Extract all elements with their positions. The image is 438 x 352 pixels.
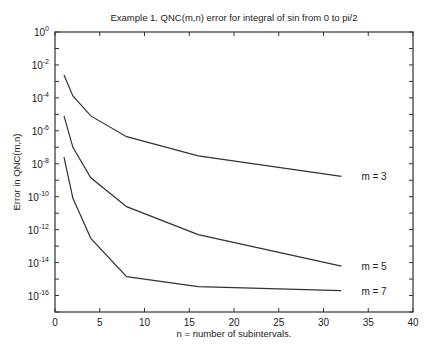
series-label: m = 5 [361, 261, 387, 272]
y-axis-label: Error in QNC(m,n) [11, 133, 22, 210]
chart-canvas: 051015202530354010010-210-410-610-810-10… [0, 0, 438, 352]
plot-frame [55, 32, 413, 312]
y-tick-label: 10-10 [28, 190, 49, 203]
x-tick-label: 25 [273, 317, 285, 328]
chart-title: Example 1. QNC(m,n) error for integral o… [55, 12, 413, 23]
x-tick-label: 0 [52, 317, 58, 328]
series-line [64, 116, 341, 266]
y-tick-label: 10-6 [32, 124, 49, 137]
x-tick-label: 20 [228, 317, 240, 328]
x-tick-label: 40 [407, 317, 419, 328]
y-tick-label: 10-8 [32, 157, 49, 170]
x-tick-label: 15 [184, 317, 196, 328]
x-tick-label: 30 [318, 317, 330, 328]
x-tick-label: 35 [363, 317, 375, 328]
y-tick-label: 10-4 [32, 91, 49, 104]
x-axis-label: n = number of subintervals. [55, 328, 413, 339]
y-tick-label: 10-2 [32, 58, 49, 71]
series-label: m = 3 [361, 171, 387, 182]
series-line [64, 75, 341, 176]
y-tick-label: 10-16 [28, 289, 49, 302]
series-label: m = 7 [361, 286, 387, 297]
y-tick-label: 10-12 [28, 223, 49, 236]
series-line [64, 157, 341, 290]
y-tick-label: 100 [34, 25, 49, 38]
y-tick-label: 10-14 [28, 256, 49, 269]
x-tick-label: 5 [97, 317, 103, 328]
x-tick-label: 10 [139, 317, 151, 328]
